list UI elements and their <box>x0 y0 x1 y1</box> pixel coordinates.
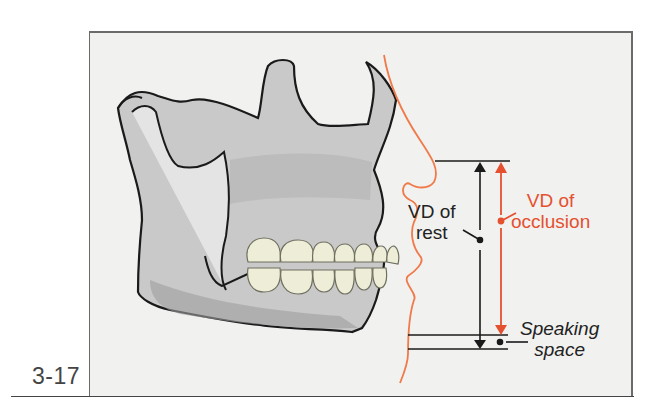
label-line: VD of <box>511 190 590 211</box>
label-line: occlusion <box>511 211 590 232</box>
label-vd-of-rest: VD of rest <box>408 201 456 243</box>
arrow-up-rest-icon <box>474 162 486 172</box>
arrow-up-occlusion-icon <box>495 162 507 173</box>
measurement-lines <box>408 161 528 349</box>
arrow-down-rest-icon <box>474 340 486 349</box>
label-line: VD of <box>408 201 456 222</box>
label-line: Speaking <box>520 318 599 339</box>
arrow-down-occlusion-icon <box>495 325 507 335</box>
label-vd-of-occlusion: VD of occlusion <box>511 190 590 232</box>
figure-number: 3-17 <box>32 363 80 390</box>
label-line: space <box>520 339 599 360</box>
label-line: rest <box>408 222 456 243</box>
figure-baseline-divider <box>11 396 634 397</box>
label-speaking-space: Speaking space <box>520 318 599 360</box>
